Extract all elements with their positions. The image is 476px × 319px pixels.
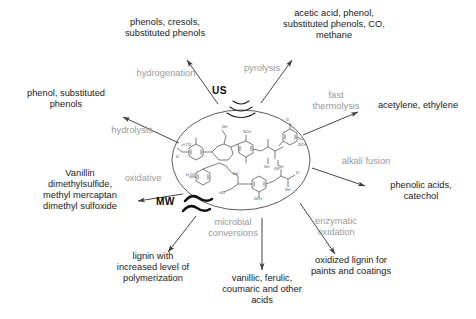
svg-text:OH: OH [285, 188, 291, 192]
product-label-hydrolysis: phenol, substituted phenols [6, 88, 126, 110]
arrow-polymerization [168, 216, 196, 252]
arrow-hydrogenation [187, 60, 218, 104]
product-label-polymerization: lignin with increased level of polymeriz… [94, 251, 212, 284]
lignin-structure-drawing [177, 123, 303, 198]
svg-text:OCH: OCH [243, 130, 251, 134]
process-label-enzymatic-oxidation: enzymatic oxidation [300, 216, 372, 238]
svg-text:OH: OH [233, 172, 239, 176]
process-label-hydrolysis: hydrolysis [98, 125, 166, 136]
product-label-microbial-conversions: vanillic, ferulic, coumaric and other ac… [201, 273, 323, 306]
svg-text:OCH: OCH [298, 143, 306, 147]
svg-text:HO: HO [219, 191, 225, 195]
svg-text:OH: OH [222, 125, 228, 129]
svg-text:O: O [296, 171, 299, 175]
process-label-hydrogenation: hydrogenation [116, 68, 216, 79]
process-label-pyrolysis: pyrolysis [230, 63, 294, 74]
energy-label-us: US [212, 85, 227, 96]
energy-label-mw: MW [156, 196, 175, 207]
product-label-hydrogenation: phenols, cresols, substituted phenols [107, 17, 223, 39]
product-label-oxidative: Vanillin dimethylsulfide, methyl mercapt… [22, 168, 138, 212]
svg-text:H CO: H CO [186, 173, 195, 177]
svg-text:H CO: H CO [182, 143, 191, 147]
svg-text:OCH: OCH [254, 197, 262, 201]
svg-text:OH: OH [264, 165, 270, 169]
svg-text:O: O [176, 155, 179, 159]
product-label-alkali-fusion: phenolic acids, catechol [369, 180, 473, 202]
sound-wave-arcs-icon [227, 101, 255, 118]
process-label-fast-thermolysis: fast thermolysis [305, 90, 367, 112]
svg-text:O: O [286, 118, 289, 122]
arrow-alkali-fusion [312, 168, 365, 186]
product-label-fast-thermolysis: acetylene, ethylene [363, 100, 473, 111]
diagram-canvas: OH OCH O OCH H CO O OH OH H CO OH HO OCH… [0, 0, 476, 319]
product-label-pyrolysis: acetic acid, phenol, substituted phenols… [266, 8, 402, 41]
process-label-alkali-fusion: alkali fusion [327, 156, 405, 167]
arrow-fast-thermolysis [303, 112, 358, 135]
svg-text:OH: OH [278, 165, 284, 169]
process-label-microbial-conversions: microbial conversions [196, 217, 270, 239]
